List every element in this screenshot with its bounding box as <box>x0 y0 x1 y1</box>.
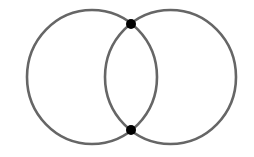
top-intersection-point <box>126 19 136 29</box>
right-circle <box>105 10 236 144</box>
left-circle <box>27 10 157 144</box>
bottom-intersection-point <box>126 125 136 135</box>
diagram-canvas <box>0 0 254 157</box>
